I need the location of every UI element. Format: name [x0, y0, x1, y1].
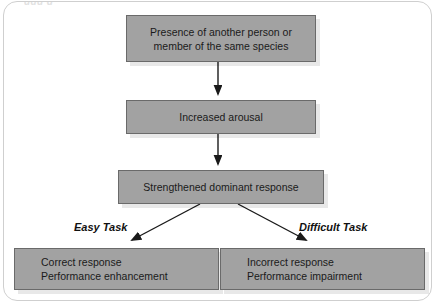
label-difficult-task: Difficult Task: [299, 221, 367, 233]
box-easy-line-1: Correct response: [41, 255, 122, 269]
box-presence-line-2: member of the same species: [154, 39, 289, 53]
box-strengthened-dominant-response: Strengthened dominant response: [118, 170, 324, 204]
box-difficult-line-2: Performance impairment: [247, 269, 362, 283]
box-easy-line-2: Performance enhancement: [41, 269, 168, 283]
box-difficult-task-outcome: Incorrect response Performance impairmen…: [220, 248, 425, 290]
box-presence: Presence of another person or member of …: [126, 15, 316, 62]
box-presence-line-1: Presence of another person or: [150, 25, 292, 39]
box-difficult-line-1: Incorrect response: [247, 255, 334, 269]
box-increased-arousal: Increased arousal: [126, 100, 316, 134]
box-dominant-line-1: Strengthened dominant response: [143, 180, 298, 194]
box-easy-task-outcome: Correct response Performance enhancement: [14, 248, 219, 290]
clipped-caption-text: ggg g: [24, 1, 324, 5]
box-arousal-line-1: Increased arousal: [179, 110, 262, 124]
flowchart-panel: ggg g Presence of another person or memb…: [3, 1, 432, 301]
label-easy-task: Easy Task: [74, 221, 127, 233]
arrow-dominant-to-difficult: [238, 204, 306, 240]
arrow-dominant-to-easy: [132, 204, 200, 240]
